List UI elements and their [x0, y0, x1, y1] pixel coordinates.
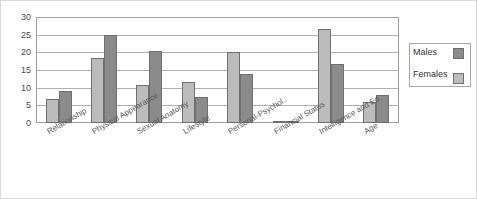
y-axis-tick-10: 10 [1, 83, 31, 92]
bar-group [81, 17, 126, 123]
x-axis-label: Age [363, 122, 379, 136]
y-axis-tick-30: 30 [1, 13, 31, 22]
chart-screenshot: 051015202530 RelationshipPhysical Appear… [0, 0, 477, 199]
legend-item-females: Females [410, 66, 470, 88]
y-axis-tick-15: 15 [1, 66, 31, 75]
y-axis: 051015202530 [1, 17, 31, 123]
y-axis-tick-20: 20 [1, 48, 31, 57]
bar-females [46, 99, 59, 123]
chart-legend: MalesFemales [409, 43, 471, 87]
legend-label: Females [413, 70, 448, 79]
bars-layer [36, 17, 399, 123]
bar-females [91, 58, 104, 123]
legend-item-males: Males [410, 44, 470, 66]
bar-group [218, 17, 263, 123]
bar-group [36, 17, 81, 123]
legend-label: Males [413, 48, 437, 57]
legend-swatch-females [453, 73, 464, 84]
y-axis-tick-25: 25 [1, 30, 31, 39]
bar-females [227, 52, 240, 123]
bar-males [104, 35, 117, 123]
x-axis-labels: RelationshipPhysical AppearanceSexual An… [1, 123, 477, 199]
y-axis-tick-5: 5 [1, 101, 31, 110]
legend-swatch-males [453, 48, 464, 59]
